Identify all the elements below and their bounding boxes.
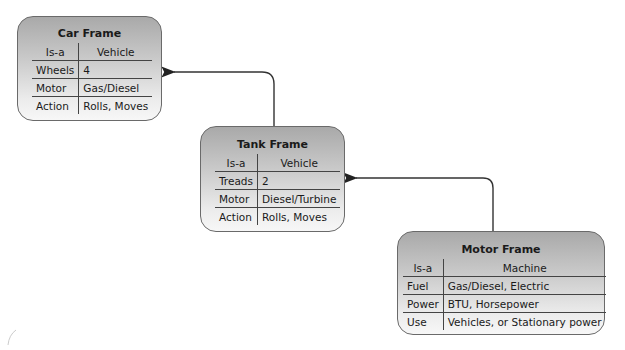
- decorative-curve: [8, 330, 16, 345]
- slot-value: Rolls, Moves: [258, 208, 341, 226]
- slot-value: Gas/Diesel, Electric: [443, 277, 605, 295]
- slot-value: Rolls, Moves: [79, 97, 152, 115]
- slot-value: Vehicles, or Stationary power: [443, 313, 605, 331]
- slot-name: Motor: [32, 79, 79, 97]
- slot-name: Fuel: [403, 277, 443, 295]
- slot-table: Is-a Machine Fuel Gas/Diesel, Electric P…: [403, 259, 606, 330]
- slot-value: Diesel/Turbine: [258, 190, 341, 208]
- isa-value: Vehicle: [79, 43, 152, 61]
- arrow-tank-to-car: [174, 72, 274, 127]
- slot-name: Action: [32, 97, 79, 115]
- slot-name: Motor: [215, 190, 258, 208]
- motor-frame: Motor Frame Is-a Machine Fuel Gas/Diesel…: [397, 231, 605, 335]
- car-frame: Car Frame Is-a Vehicle Wheels 4 Motor Ga…: [17, 16, 162, 121]
- arrow-motor-to-tank: [356, 178, 493, 232]
- slot-value: BTU, Horsepower: [443, 295, 605, 313]
- slot-name: Action: [215, 208, 258, 226]
- slot-name: Wheels: [32, 61, 79, 79]
- slot-table: Is-a Vehicle Treads 2 Motor Diesel/Turbi…: [215, 154, 340, 225]
- slot-table: Is-a Vehicle Wheels 4 Motor Gas/Diesel A…: [32, 43, 152, 114]
- slot-value: 2: [258, 172, 341, 190]
- slot-name: Power: [403, 295, 443, 313]
- slot-value: Gas/Diesel: [79, 79, 152, 97]
- isa-value: Vehicle: [258, 154, 341, 172]
- slot-name: Treads: [215, 172, 258, 190]
- frame-title: Car Frame: [18, 27, 161, 40]
- slot-value: 4: [79, 61, 152, 79]
- isa-label: Is-a: [403, 259, 443, 277]
- isa-label: Is-a: [215, 154, 258, 172]
- frame-title: Tank Frame: [201, 138, 344, 151]
- tank-frame: Tank Frame Is-a Vehicle Treads 2 Motor D…: [200, 126, 345, 232]
- isa-value: Machine: [443, 259, 605, 277]
- isa-label: Is-a: [32, 43, 79, 61]
- frame-title: Motor Frame: [398, 243, 604, 256]
- slot-name: Use: [403, 313, 443, 331]
